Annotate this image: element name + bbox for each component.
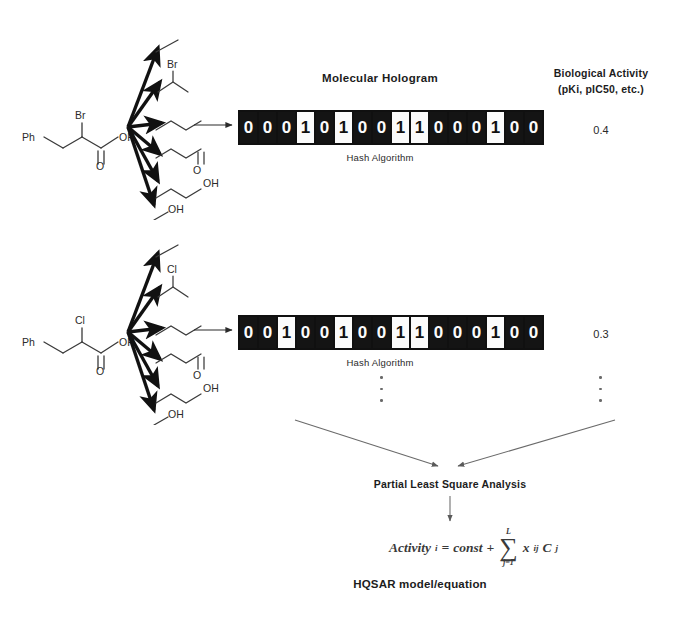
molecule-1-halogen-label: Br xyxy=(75,109,86,121)
equation-term-x: x xyxy=(523,540,530,556)
hologram-bit: 0 xyxy=(240,317,257,348)
pls-to-equation-arrow-svg xyxy=(440,495,460,529)
hologram-bit: 0 xyxy=(430,317,447,348)
activity-ellipsis xyxy=(599,376,602,402)
ellipsis-dot xyxy=(380,388,383,391)
fragment-6-atom-label: OH xyxy=(168,408,184,420)
pls-analysis-label: Partial Least Square Analysis xyxy=(300,478,600,490)
hologram-bit: 1 xyxy=(335,317,352,348)
ellipsis-dot xyxy=(380,399,383,402)
hash-arrow-1-svg xyxy=(192,115,240,135)
fragment-2-atom-label: Br xyxy=(167,58,178,70)
hash-algorithm-label-1: Hash Algorithm xyxy=(290,152,470,163)
hqsar-equation: Activityi = const + L ∑ j=1 xijCj xyxy=(228,528,558,567)
equation-summation: L ∑ j=1 xyxy=(499,528,518,567)
fragment-5-atom-label: OH xyxy=(203,382,219,394)
hologram-bit: 0 xyxy=(259,317,276,348)
equation-equals: = xyxy=(441,540,449,556)
hologram-bit: 0 xyxy=(373,112,390,143)
hologram-bit: 0 xyxy=(316,112,333,143)
hologram-bit: 0 xyxy=(240,112,257,143)
fragment-1-bond xyxy=(156,40,178,52)
hologram-strip-1: 0001010011000100 xyxy=(238,110,544,145)
hologram-bit: 0 xyxy=(506,317,523,348)
equation-term-c: C xyxy=(542,540,551,556)
hologram-bit: 0 xyxy=(430,112,447,143)
hqsar-model-label: HQSAR model/equation xyxy=(270,578,570,590)
fragment-6-atom-label: OH xyxy=(168,203,184,215)
hologram-bit: 1 xyxy=(335,112,352,143)
fragment-2-atom-label: Cl xyxy=(167,263,177,275)
hologram-bit: 1 xyxy=(487,112,504,143)
hologram-title-1: Molecular Hologram xyxy=(270,72,490,84)
biological-activity-heading: Biological Activity (pKi, pIC50, etc.) xyxy=(528,66,674,98)
equation-lhs: Activity xyxy=(389,540,431,556)
hologram-bit: 0 xyxy=(468,112,485,143)
activity-heading-line2: (pKi, pIC50, etc.) xyxy=(528,82,674,98)
pls-to-equation-arrow xyxy=(440,495,460,529)
fragment-1-bond xyxy=(156,245,178,257)
molecule-1-carbonyl-label: O xyxy=(96,160,104,170)
hologram-bit: 0 xyxy=(468,317,485,348)
hash-arrow-1 xyxy=(192,115,240,135)
hologram-bit: 1 xyxy=(487,317,504,348)
hologram-bit: 1 xyxy=(411,112,428,143)
hash-arrow-2-svg xyxy=(192,320,240,340)
hologram-bit: 0 xyxy=(373,317,390,348)
hologram-bit: 1 xyxy=(411,317,428,348)
equation-term-c-subscript: j xyxy=(555,543,558,553)
hologram-bit: 0 xyxy=(354,112,371,143)
fragment-4-atom-label: O xyxy=(193,164,201,176)
hologram-bit: 0 xyxy=(354,317,371,348)
hologram-bit: 0 xyxy=(259,112,276,143)
hologram-bit: 0 xyxy=(449,317,466,348)
ellipsis-dot xyxy=(599,388,602,391)
convergence-arrows-svg xyxy=(290,418,620,478)
molecule-1-ph-label: Ph xyxy=(22,131,35,143)
equation-term-x-subscript: ij xyxy=(533,543,538,553)
equation-plus: + xyxy=(486,540,494,556)
ellipsis-dot xyxy=(599,399,602,402)
summation-lower-limit: j=1 xyxy=(503,559,514,567)
hologram-bit: 0 xyxy=(297,317,314,348)
hologram-bit: 0 xyxy=(316,317,333,348)
hash-arrow-2 xyxy=(192,320,240,340)
hologram-bit: 1 xyxy=(278,317,295,348)
equation-const: const xyxy=(453,540,482,556)
convergence-arrows xyxy=(290,418,620,478)
hologram-strip-2: 0010010011000100 xyxy=(238,315,544,350)
molecule-2-ph-label: Ph xyxy=(22,336,35,348)
hologram-bit: 0 xyxy=(506,112,523,143)
hologram-bit: 1 xyxy=(297,112,314,143)
hologram-bit: 1 xyxy=(392,317,409,348)
activity-value-2: 0.3 xyxy=(528,328,674,340)
equation-lhs-subscript: i xyxy=(435,543,438,553)
molecule-2-carbonyl-label: O xyxy=(96,365,104,375)
hologram-bit: 0 xyxy=(278,112,295,143)
hologram-ellipsis xyxy=(380,376,383,402)
sigma-icon: ∑ xyxy=(499,536,518,559)
hologram-bit: 0 xyxy=(449,112,466,143)
ellipsis-dot xyxy=(599,376,602,379)
hologram-bit: 1 xyxy=(392,112,409,143)
activity-value-1: 0.4 xyxy=(528,124,674,136)
hash-algorithm-label-2: Hash Algorithm xyxy=(290,357,470,368)
figure-canvas: Ph Br OH O xyxy=(0,0,680,626)
ellipsis-dot xyxy=(380,376,383,379)
molecule-2-halogen-label: Cl xyxy=(75,314,85,326)
activity-heading-line1: Biological Activity xyxy=(528,66,674,82)
fragment-5-atom-label: OH xyxy=(203,177,219,189)
fragment-4-atom-label: O xyxy=(193,369,201,381)
